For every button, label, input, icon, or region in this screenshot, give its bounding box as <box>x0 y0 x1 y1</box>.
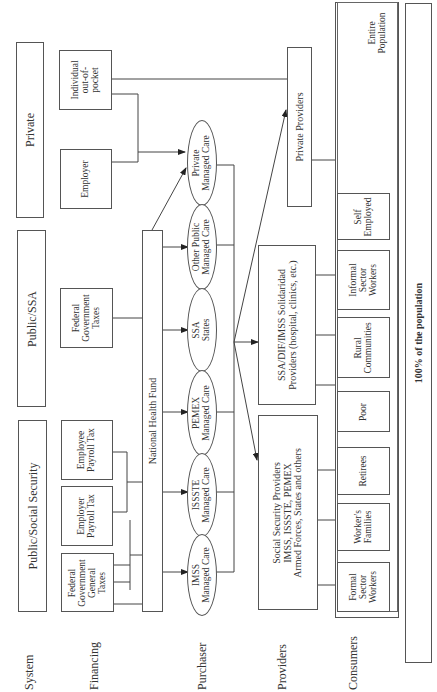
consumer-workers-families-label: Worker's Families <box>354 510 374 544</box>
row-label-purchaser: Purchaser <box>195 643 210 690</box>
system-private: Private <box>16 42 44 218</box>
purchaser-private-label: Private Managed Care <box>192 135 212 191</box>
consumer-self-employed-label: Self Employed <box>354 197 374 236</box>
consumer-self-employed: Self Employed <box>337 193 390 240</box>
financing-employer-payroll-label: Employer Payroll Tax <box>77 494 97 538</box>
financing-employee-payroll-label: Employee Payroll Tax <box>77 428 97 472</box>
consumer-informal-sector-workers: Informal Sector Workers <box>337 250 390 310</box>
national-health-fund-label: National Health Fund <box>147 378 158 465</box>
financing-employer: Employer <box>60 149 112 209</box>
system-public-social-security-label: Public/Social Security <box>26 463 39 570</box>
purchaser-ssa-states: SSA States <box>187 288 217 372</box>
purchaser-other-public-label: Other Public Managed Care <box>192 219 212 275</box>
consumer-poor: Poor <box>337 391 390 432</box>
purchaser-pemex-label: PEMEX Managed Care <box>192 385 212 441</box>
purchaser-other-public-managed-care: Other Public Managed Care <box>187 204 217 290</box>
consumer-informal-label: Informal Sector Workers <box>349 263 379 296</box>
consumer-rural-communities: Rural Communities <box>337 317 390 378</box>
system-private-label: Private <box>24 113 37 147</box>
consumer-rural-label: Rural Communities <box>354 322 374 373</box>
financing-employee-payroll-tax: Employee Payroll Tax <box>61 420 113 480</box>
financing-individual-label: Individual out-of- pocket <box>71 60 101 99</box>
population-bar: 100% of the population <box>405 3 432 663</box>
consumer-workers-families: Worker's Families <box>337 503 390 551</box>
financing-federal-government-taxes: Federal Government Taxes <box>60 288 113 348</box>
provider-ssa-dif-imss: SSA/DIF/IMSS Solidaridad Providers (hosp… <box>258 245 316 405</box>
row-label-system: System <box>22 655 37 690</box>
purchaser-ssa-label: SSA States <box>192 319 212 342</box>
financing-federal-taxes-label: Federal Government Taxes <box>72 294 102 342</box>
purchaser-issste-label: ISSSTE Managed Care <box>192 467 212 523</box>
financing-employer-label: Employer <box>81 160 91 197</box>
financing-employer-payroll-tax: Employer Payroll Tax <box>61 486 113 546</box>
consumer-formal-label: Formal Sector Workers <box>349 571 379 603</box>
system-public-social-security: Public/Social Security <box>18 420 47 612</box>
provider-private-label: Private Providers <box>294 92 305 161</box>
national-health-fund: National Health Fund <box>142 230 163 612</box>
purchaser-imss-label: IMSS Managed Care <box>192 547 212 603</box>
provider-social-security-label: Social Security Providers IMSS, ISSSTE, … <box>272 448 304 578</box>
row-label-providers: Providers <box>275 644 290 690</box>
financing-federal-government-general-taxes: Federal Government General Taxes <box>61 553 114 612</box>
provider-social-security-providers: Social Security Providers IMSS, ISSSTE, … <box>258 415 318 610</box>
consumer-retirees-label: Retirees <box>359 455 369 486</box>
consumer-poor-label: Poor <box>359 403 369 421</box>
system-public-ssa: Public/SSA <box>17 230 46 407</box>
consumers-entire-population-label: Entire Population <box>368 12 388 53</box>
row-label-financing: Financing <box>87 642 102 690</box>
purchaser-imss-managed-care: IMSS Managed Care <box>187 534 217 616</box>
system-public-ssa-label: Public/SSA <box>25 290 38 346</box>
consumer-retirees: Retirees <box>337 447 390 495</box>
population-bar-label: 100% of the population <box>413 283 424 383</box>
purchaser-issste-managed-care: ISSSTE Managed Care <box>187 453 217 537</box>
purchaser-pemex-managed-care: PEMEX Managed Care <box>187 370 217 456</box>
provider-ssa-dif-imss-label: SSA/DIF/IMSS Solidaridad Providers (hosp… <box>277 260 298 389</box>
consumer-formal-sector-workers: Formal Sector Workers <box>337 562 390 612</box>
provider-private-providers: Private Providers <box>287 47 312 207</box>
purchaser-private-managed-care: Private Managed Care <box>187 120 217 206</box>
row-label-consumers: Consumers <box>346 636 361 690</box>
financing-federal-general-label: Federal Government General Taxes <box>68 559 108 607</box>
financing-individual-out-of-pocket: Individual out-of- pocket <box>59 50 112 110</box>
